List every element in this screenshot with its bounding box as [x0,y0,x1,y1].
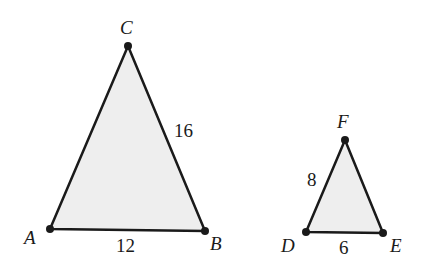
similar-triangles-diagram: A B C 12 16 D E F 6 8 [0,0,426,272]
vertex-c-point [124,42,132,50]
triangle-abc: A B C 12 16 [22,17,222,256]
vertex-f-point [341,136,349,144]
triangle-def-shape [306,140,383,233]
vertex-d-label: D [280,235,295,256]
vertex-e-point [379,229,387,237]
vertex-a-point [46,225,54,233]
vertex-e-label: E [389,235,402,256]
vertex-b-label: B [210,233,222,254]
side-bc-length: 16 [174,120,193,141]
vertex-c-label: C [120,17,133,38]
vertex-a-label: A [22,227,36,248]
side-df-length: 8 [307,169,317,190]
vertex-d-point [302,228,310,236]
side-ab-length: 12 [116,235,135,256]
triangle-def: D E F 6 8 [280,111,402,258]
vertex-f-label: F [336,111,349,132]
side-de-length: 6 [339,237,349,258]
vertex-b-point [201,227,209,235]
